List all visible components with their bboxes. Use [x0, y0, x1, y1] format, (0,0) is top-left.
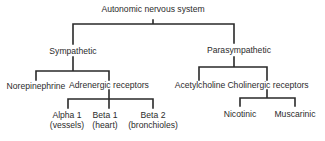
node-sympathetic: Sympathetic	[49, 47, 96, 57]
node-alpha-1: Alpha 1 (vessels)	[50, 111, 84, 130]
node-nicotinic: Nicotinic	[224, 110, 256, 120]
node-beta-1: Beta 1 (heart)	[92, 111, 117, 130]
connector-root	[73, 20, 234, 44]
connector-adrenergic	[68, 90, 153, 108]
node-muscarinic: Muscarinic	[274, 110, 315, 120]
node-beta-1-sublabel: (heart)	[92, 121, 117, 131]
node-norepinephrine: Norepinephrine	[7, 82, 66, 92]
node-beta-2-sublabel: (bronchioles)	[128, 121, 178, 131]
node-autonomic-nervous-system: Autonomic nervous system	[101, 5, 204, 15]
connector-cholinergic	[240, 90, 295, 106]
ans-tree-diagram: Autonomic nervous system Sympathetic Par…	[0, 0, 325, 141]
connector-parasympathetic	[199, 57, 267, 80]
node-parasympathetic: Parasympathetic	[207, 46, 271, 56]
node-cholinergic-receptors: Cholinergic receptors	[227, 81, 308, 91]
connector-sympathetic	[36, 57, 109, 80]
node-adrenergic-receptors: Adrenergic receptors	[69, 81, 149, 91]
node-alpha-1-sublabel: (vessels)	[50, 121, 84, 131]
node-acetylcholine: Acetylcholine	[175, 81, 226, 91]
node-beta-2: Beta 2 (bronchioles)	[128, 111, 178, 130]
